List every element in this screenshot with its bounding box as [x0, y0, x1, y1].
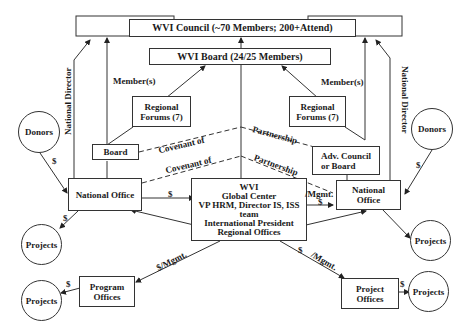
- global-center-line6: Regional Offices: [217, 228, 280, 237]
- dollar-project-offices: $: [400, 279, 405, 289]
- wvi-council-box: WVI Council (~70 Members; 200+Attend): [129, 19, 356, 37]
- board-label: WVI Board (24/25 Members): [177, 52, 302, 62]
- regional-forums-left: Regional Forums (7): [132, 96, 191, 127]
- donors-left: Donors: [18, 111, 60, 153]
- regional-forums-right: Regional Forums (7): [289, 96, 346, 127]
- adv-council-box: Adv. Council or Board: [312, 146, 380, 175]
- project-offices-line2: Offices: [357, 294, 384, 304]
- regional-forums-right-line2: Forums (7): [296, 112, 339, 122]
- regional-forums-right-line1: Regional: [300, 102, 334, 112]
- council-label: WVI Council (~70 Members; 200+Attend): [152, 23, 332, 33]
- regional-forums-left-line1: Regional: [144, 102, 178, 112]
- dollar-gc-to-no-right: $: [318, 197, 323, 207]
- national-director-right-label: National Director: [400, 66, 410, 134]
- projects-left-upper-label: Projects: [26, 240, 57, 250]
- donors-right-label: Donors: [418, 124, 446, 134]
- board-small: Board: [92, 144, 139, 160]
- board-small-label: Board: [103, 147, 127, 157]
- dollar-donors-right: $: [416, 160, 421, 170]
- national-office-left: National Office: [68, 178, 142, 211]
- program-offices-box: Program Offices: [79, 276, 135, 307]
- project-offices-box: Project Offices: [341, 278, 399, 309]
- project-offices-line1: Project: [356, 284, 384, 294]
- projects-left-lower: Projects: [21, 280, 62, 321]
- donors-left-label: Donors: [25, 127, 53, 137]
- dollar-program-offices: $: [66, 279, 71, 289]
- national-office-right: National Office: [336, 180, 401, 210]
- program-offices-line1: Program: [90, 282, 124, 292]
- dollar-no-to-gc: $: [168, 189, 173, 199]
- donors-right: Donors: [411, 108, 453, 150]
- adv-council-line2: or Board: [321, 161, 356, 171]
- projects-right-lower-label: Projects: [413, 287, 444, 297]
- national-office-right-line1: National: [352, 185, 385, 195]
- projects-right-lower: Projects: [408, 271, 449, 312]
- dollar-gc-to-project-offices: $: [298, 245, 303, 255]
- wvi-board-box: WVI Board (24/25 Members): [149, 48, 331, 65]
- members-label-right: Member(s): [321, 77, 363, 87]
- program-offices-line2: Offices: [94, 292, 121, 302]
- dollar-donors-left: $: [52, 156, 57, 166]
- national-office-left-label: National Office: [76, 190, 135, 200]
- projects-left-lower-label: Projects: [26, 296, 57, 306]
- national-director-left-label: National Director: [63, 67, 73, 135]
- adv-council-line1: Adv. Council: [321, 151, 371, 161]
- national-office-right-line2: Office: [357, 195, 380, 205]
- members-label-left: Member(s): [113, 76, 155, 86]
- regional-forums-left-line2: Forums (7): [140, 112, 183, 122]
- dollar-no-to-projects-left: $: [63, 213, 68, 223]
- projects-right-upper: Projects: [410, 220, 451, 261]
- projects-left-upper: Projects: [21, 224, 62, 265]
- projects-right-upper-label: Projects: [415, 236, 446, 246]
- global-center-box: WVI Global Center VP HRM, Director IS, I…: [191, 178, 307, 241]
